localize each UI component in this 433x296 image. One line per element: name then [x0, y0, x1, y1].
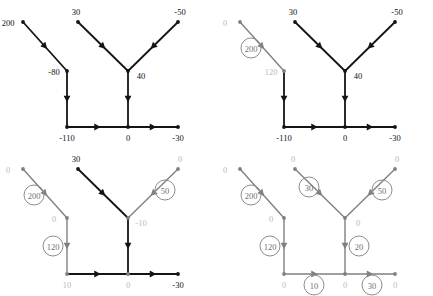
first-flow-assigned: 0120-1103040-500-30200 [217, 0, 433, 146]
node-label-c-bottom-left: -110 [276, 134, 291, 143]
node-label-g-bottom-mid: 0 [343, 281, 347, 290]
node-dot-a-top-left [21, 20, 25, 24]
node-label-b-mid-left: -80 [48, 68, 59, 77]
node-dot-b-mid-left [65, 69, 69, 73]
node-label-h-bottom-right: -30 [389, 134, 400, 143]
node-label-e-junction: -10 [135, 219, 146, 228]
arrowhead-c-g [311, 124, 318, 131]
flow-label-f-e: 50 [372, 180, 393, 201]
node-dot-g-bottom-mid [126, 272, 130, 276]
node-label-f-top-right: -50 [391, 8, 402, 17]
arrowhead-b-c [64, 243, 71, 250]
all-flows-assigned: 000000002001203050201030 [217, 147, 433, 293]
node-dot-b-mid-left [65, 216, 69, 220]
node-label-a-top-left: 0 [223, 166, 227, 175]
node-dot-c-bottom-left [282, 125, 286, 129]
node-dot-e-junction [126, 69, 130, 73]
node-label-d-top-mid: 30 [72, 155, 81, 164]
node-dot-g-bottom-mid [126, 125, 130, 129]
initial-node-values: 200-80-1103040-500-30 [0, 0, 216, 146]
node-dot-g-bottom-mid [343, 272, 347, 276]
arrowhead-g-h [150, 271, 157, 278]
node-dot-d-top-mid [76, 167, 80, 171]
arrowhead-c-g [94, 271, 101, 278]
flow-label-a-b: 200 [24, 185, 45, 206]
node-label-b-mid-left: 120 [265, 68, 278, 77]
arrowhead-c-g [94, 124, 101, 131]
node-dot-e-junction [126, 216, 130, 220]
node-dot-a-top-left [238, 167, 242, 171]
node-label-c-bottom-left: 0 [282, 281, 286, 290]
arrowhead-e-g [342, 243, 349, 250]
flow-label-c-g: 10 [304, 275, 325, 296]
arrowhead-e-g [125, 96, 132, 103]
node-dot-f-top-right [393, 20, 397, 24]
three-flows-assigned: 001030-1000-3020012050 [0, 147, 216, 293]
node-label-e-junction: 0 [356, 219, 360, 228]
node-label-c-bottom-left: -110 [59, 134, 74, 143]
arrowhead-g-h [367, 124, 374, 131]
flow-label-f-e: 50 [155, 180, 176, 201]
node-label-e-junction: 40 [137, 72, 146, 81]
node-dot-a-top-left [21, 167, 25, 171]
node-dot-c-bottom-left [65, 272, 69, 276]
node-label-h-bottom-right: -30 [172, 281, 183, 290]
node-dot-d-top-mid [76, 20, 80, 24]
node-dot-c-bottom-left [65, 125, 69, 129]
node-label-f-top-right: 0 [395, 155, 399, 164]
node-dot-a-top-left [238, 20, 242, 24]
node-dot-e-junction [343, 69, 347, 73]
node-label-g-bottom-mid: 0 [126, 281, 130, 290]
node-label-a-top-left: 0 [6, 166, 10, 175]
node-label-d-top-mid: 0 [291, 155, 295, 164]
flow-label-b-c: 120 [260, 236, 281, 257]
arrowhead-e-g [125, 243, 132, 250]
flow-label-d-e: 30 [299, 177, 320, 198]
node-dot-e-junction [343, 216, 347, 220]
node-dot-g-bottom-mid [343, 125, 347, 129]
arrowhead-b-c [281, 243, 288, 250]
node-dot-d-top-mid [293, 167, 297, 171]
node-dot-b-mid-left [282, 69, 286, 73]
node-dot-c-bottom-left [282, 272, 286, 276]
node-dot-b-mid-left [282, 216, 286, 220]
flow-label-e-g: 20 [349, 236, 370, 257]
node-label-g-bottom-mid: 0 [343, 134, 347, 143]
node-dot-h-bottom-right [393, 272, 397, 276]
node-label-h-bottom-right: -30 [172, 134, 183, 143]
node-label-f-top-right: -50 [174, 8, 185, 17]
node-dot-d-top-mid [293, 20, 297, 24]
flow-label-b-c: 120 [43, 236, 64, 257]
arrowhead-b-c [64, 96, 71, 103]
node-label-f-top-right: 0 [178, 155, 182, 164]
node-dot-f-top-right [176, 167, 180, 171]
node-label-a-top-left: 200 [2, 19, 15, 28]
flow-label-a-b: 200 [241, 185, 262, 206]
arrowhead-g-h [150, 124, 157, 131]
node-label-c-bottom-left: 10 [63, 281, 72, 290]
node-label-d-top-mid: 30 [289, 8, 298, 17]
node-dot-f-top-right [393, 167, 397, 171]
node-dot-h-bottom-right [176, 125, 180, 129]
node-dot-h-bottom-right [393, 125, 397, 129]
node-label-e-junction: 40 [354, 72, 363, 81]
arrowhead-b-c [281, 96, 288, 103]
arrowhead-e-g [342, 96, 349, 103]
flow-label-a-b: 200 [241, 38, 262, 59]
node-dot-h-bottom-right [176, 272, 180, 276]
flow-label-g-h: 30 [362, 275, 383, 296]
node-label-b-mid-left: 0 [52, 215, 56, 224]
node-label-a-top-left: 0 [223, 19, 227, 28]
node-dot-f-top-right [176, 20, 180, 24]
node-label-b-mid-left: 0 [269, 215, 273, 224]
node-label-g-bottom-mid: 0 [126, 134, 130, 143]
node-label-d-top-mid: 30 [72, 8, 81, 17]
node-label-h-bottom-right: 0 [393, 281, 397, 290]
